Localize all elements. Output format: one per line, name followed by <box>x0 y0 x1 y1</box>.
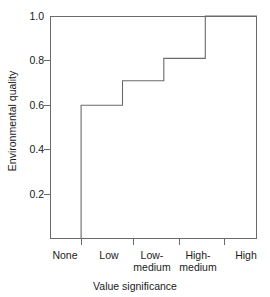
x-tick-label-low-medium-line1: Low- <box>141 249 164 261</box>
x-axis-title: Value significance <box>0 280 270 292</box>
x-tick-label-high-medium-line1: High- <box>185 249 210 261</box>
x-tick-label-high-line1: High <box>235 249 257 261</box>
x-tick-label-high-medium-line2: medium <box>163 262 233 274</box>
x-tick-mark-low <box>81 239 82 245</box>
x-tick-mark-high-medium <box>179 239 180 245</box>
step-chart: Environmental quality 1.0 0.8 0.6 0.4 0.… <box>0 0 270 297</box>
x-tick-mark-low-medium <box>133 239 134 245</box>
step-line-path <box>81 16 257 239</box>
x-tick-label-high: High <box>211 250 270 262</box>
x-tick-mark-high <box>224 239 225 245</box>
x-tick-label-low-line1: Low <box>99 249 118 261</box>
